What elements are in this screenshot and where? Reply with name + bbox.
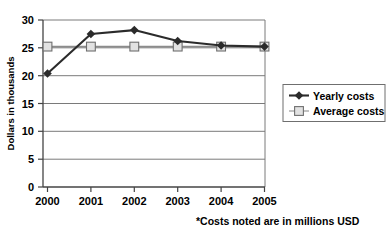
x-axis-tick-labels: 2000 2001 2002 2003 2004 2005 [35, 195, 276, 207]
y-tick-label-20: 20 [22, 70, 34, 82]
chart-canvas: 30 25 20 15 10 5 0 2000 2001 2002 2003 2… [0, 0, 390, 232]
legend-label-yearly-costs: Yearly costs [313, 90, 374, 102]
x-tick-label-2003: 2003 [165, 195, 189, 207]
legend-item-average-costs[interactable]: Average costs [289, 105, 385, 117]
legend-label-average-costs: Average costs [313, 105, 385, 117]
x-tick-label-2001: 2001 [79, 195, 103, 207]
x-tick-label-2002: 2002 [122, 195, 146, 207]
x-axis-ticks [48, 187, 265, 192]
chart-legend: Yearly costs Average costs [283, 85, 385, 122]
y-tick-label-25: 25 [22, 42, 34, 54]
x-tick-label-2005: 2005 [252, 195, 276, 207]
marker-average-2001 [87, 42, 96, 51]
y-tick-label-0: 0 [28, 181, 34, 193]
line-chart-figure: 30 25 20 15 10 5 0 2000 2001 2002 2003 2… [0, 0, 390, 232]
y-axis-tick-labels: 30 25 20 15 10 5 0 [22, 14, 34, 193]
x-tick-label-2000: 2000 [35, 195, 59, 207]
chart-footnote: *Costs noted are in millions USD [196, 215, 360, 227]
marker-average-2002 [130, 42, 139, 51]
y-axis-title: Dollars in thousands [5, 57, 16, 151]
y-tick-label-10: 10 [22, 125, 34, 137]
y-tick-label-15: 15 [22, 98, 34, 110]
y-tick-label-30: 30 [22, 14, 34, 26]
x-tick-label-2004: 2004 [209, 195, 234, 207]
y-axis-ticks [38, 20, 43, 187]
legend-marker-square-icon [295, 107, 304, 116]
marker-average-2000 [43, 42, 52, 51]
y-tick-label-5: 5 [28, 153, 34, 165]
